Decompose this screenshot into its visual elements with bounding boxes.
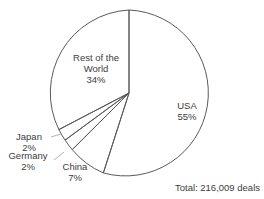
slice-value-rest-of-world: 34% xyxy=(65,74,127,85)
slice-label-rest-of-world: Rest of the World 34% xyxy=(65,52,127,85)
slice-label-usa-name: USA xyxy=(170,100,204,111)
slice-value-germany: 2% xyxy=(2,161,54,172)
slice-label-japan-name: Japan xyxy=(8,131,50,142)
slice-label-usa: USA 55% xyxy=(170,100,204,122)
slice-value-china: 7% xyxy=(58,172,92,183)
slice-label-china-name: China xyxy=(58,161,92,172)
leader-line-germany xyxy=(54,152,64,160)
slice-label-rest-of-world-line1: Rest of the xyxy=(65,52,127,63)
chart-total-note: Total: 216,009 deals xyxy=(175,182,260,193)
pie-slice-usa[interactable] xyxy=(103,10,208,176)
leader-line-japan xyxy=(51,134,61,137)
pie-chart-figure: Rest of the World 34% USA 55% China 7% G… xyxy=(0,0,264,199)
slice-label-rest-of-world-line2: World xyxy=(65,63,127,74)
pie-slice-japan[interactable] xyxy=(59,93,129,140)
slice-label-germany: Germany 2% xyxy=(2,150,54,172)
slice-value-japan: 2% xyxy=(8,142,50,153)
slice-value-usa: 55% xyxy=(170,111,204,122)
slice-label-japan: Japan 2% xyxy=(8,131,50,153)
slice-label-china: China 7% xyxy=(58,161,92,183)
